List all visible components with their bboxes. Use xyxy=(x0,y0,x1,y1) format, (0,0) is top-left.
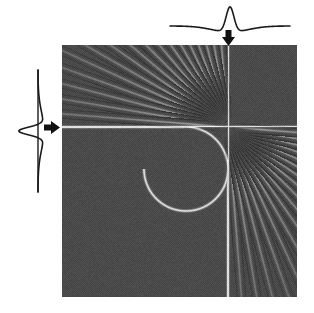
down-arrow-icon xyxy=(222,30,235,46)
vertical-kernel-curve xyxy=(19,70,43,192)
raster-canvas xyxy=(62,45,297,297)
horizontal-kernel-curve xyxy=(170,7,290,31)
right-arrow-glyph xyxy=(44,121,60,134)
figure-root: Sharpening (Mexican-hat) kernel applied … xyxy=(0,0,314,313)
filtered-test-image xyxy=(62,45,297,297)
down-arrow-glyph xyxy=(222,30,235,46)
right-arrow-icon xyxy=(44,121,60,134)
